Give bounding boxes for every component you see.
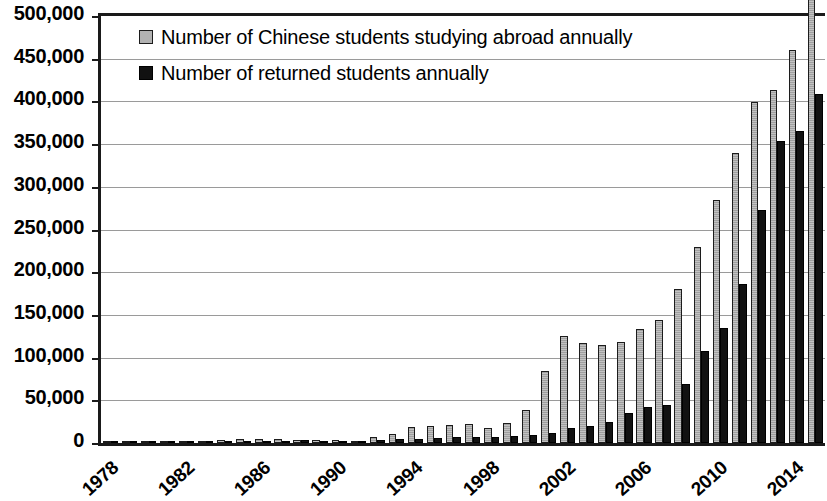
x-axis-tick-label: 1998 <box>458 457 503 501</box>
legend-label-returned: Number of returned students annually <box>161 62 488 85</box>
bar <box>503 423 511 443</box>
y-axis-tick-mark <box>92 187 101 189</box>
x-axis-tick-label: 1994 <box>382 457 427 501</box>
bar-group <box>713 16 728 443</box>
bar-group <box>751 16 766 443</box>
x-axis-tick-label: 1982 <box>154 457 199 501</box>
bar <box>541 371 549 443</box>
bar <box>568 428 576 443</box>
y-axis-tick-label: 300,000 <box>14 172 84 195</box>
bar <box>636 329 644 443</box>
bar <box>674 289 682 443</box>
bar <box>777 141 785 443</box>
legend-label-studying-abroad: Number of Chinese students studying abro… <box>161 26 632 49</box>
y-axis-tick-mark <box>92 272 101 274</box>
bar-group <box>732 16 747 443</box>
bar <box>796 131 804 443</box>
y-axis-tick-mark <box>92 101 101 103</box>
bar <box>655 320 663 443</box>
bar <box>484 428 492 443</box>
y-axis-tick-mark <box>92 59 101 61</box>
y-axis-tick-label: 0 <box>73 429 84 452</box>
y-axis-tick-label: 500,000 <box>14 2 84 25</box>
y-axis-tick-label: 50,000 <box>25 386 84 409</box>
bar <box>579 343 587 443</box>
y-axis-tick-label: 150,000 <box>14 300 84 323</box>
y-axis-tick-mark <box>92 315 101 317</box>
bar <box>446 425 454 443</box>
x-axis-tick-label: 2014 <box>763 457 808 501</box>
y-axis-tick-label: 350,000 <box>14 130 84 153</box>
x-axis-tick-label: 1986 <box>230 457 275 501</box>
legend-item-returned: Number of returned students annually <box>139 58 699 88</box>
x-axis-tick-labels: 1978198219861990199419982002200620102014 <box>98 443 822 492</box>
y-axis-tick-mark <box>92 358 101 360</box>
y-axis-tick-label: 250,000 <box>14 215 84 238</box>
bar <box>701 351 709 443</box>
bar <box>625 413 633 443</box>
bar-group <box>122 16 137 443</box>
bar <box>598 345 606 443</box>
x-axis-tick-label: 1990 <box>306 457 351 501</box>
bar-group <box>808 16 823 443</box>
bar <box>751 102 759 443</box>
bar <box>739 284 747 443</box>
bar <box>560 336 568 443</box>
y-axis-tick-label: 200,000 <box>14 258 84 281</box>
bar <box>758 210 766 443</box>
y-axis-tick-label: 400,000 <box>14 87 84 110</box>
y-axis-tick-mark <box>92 144 101 146</box>
x-axis-tick-label: 2002 <box>535 457 580 501</box>
y-axis-tick-label: 100,000 <box>14 343 84 366</box>
y-axis-tick-label: 450,000 <box>14 44 84 67</box>
bar <box>522 410 530 443</box>
bar <box>789 50 797 443</box>
legend-swatch-icon-black <box>139 66 153 80</box>
bar <box>549 433 557 443</box>
y-axis-tick-mark <box>92 16 101 18</box>
bar <box>682 384 690 443</box>
chart-legend: Number of Chinese students studying abro… <box>139 22 699 94</box>
bar-group <box>770 16 785 443</box>
y-axis-tick-mark <box>92 230 101 232</box>
bar <box>587 426 595 443</box>
x-axis-tick-label: 2010 <box>687 457 732 501</box>
bar <box>606 422 614 443</box>
bar <box>663 405 671 443</box>
legend-swatch-icon-gray <box>139 30 153 44</box>
bar <box>694 247 702 443</box>
bar <box>815 94 823 443</box>
bar <box>808 0 816 443</box>
bar <box>770 90 778 443</box>
bar <box>720 328 728 443</box>
y-axis-tick-labels: 050,000100,000150,000200,000250,000300,0… <box>0 0 92 492</box>
bar <box>511 436 519 443</box>
bar <box>408 427 416 443</box>
x-axis-tick-label: 2006 <box>611 457 656 501</box>
bar <box>732 153 740 443</box>
bar <box>427 426 435 443</box>
bar <box>713 200 721 443</box>
bar <box>530 435 538 443</box>
bar-group <box>103 16 118 443</box>
bar-group <box>789 16 804 443</box>
legend-item-studying-abroad: Number of Chinese students studying abro… <box>139 22 699 52</box>
bar <box>389 434 397 443</box>
y-axis-tick-mark <box>92 400 101 402</box>
bar <box>465 424 473 443</box>
bar <box>617 342 625 443</box>
bar <box>644 407 652 443</box>
